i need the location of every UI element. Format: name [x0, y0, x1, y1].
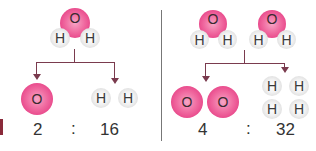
atom-label: O: [267, 11, 278, 27]
ratio-separator: :: [246, 119, 251, 139]
ratio-separator: :: [71, 119, 76, 139]
atom-label: H: [281, 32, 291, 48]
atom-label: O: [32, 91, 43, 107]
atom-label: H: [267, 101, 277, 117]
oxygen-atom: O: [21, 83, 53, 115]
atom-label: H: [294, 101, 304, 117]
hydrogen-atom: H: [118, 88, 138, 108]
left-edge-mark: [0, 119, 3, 135]
atom-label: H: [267, 78, 277, 94]
arrow-down-icon: [281, 67, 289, 73]
atom-label: H: [253, 32, 263, 48]
hydrogen-atom: H: [289, 76, 309, 96]
oxygen-atom: O: [171, 86, 203, 118]
hydrogen-atom: H: [249, 30, 268, 49]
hydrogen-atom: H: [91, 88, 111, 108]
atom-label: O: [218, 94, 229, 110]
oxygen-mass: 4: [198, 120, 207, 140]
atom-label: H: [55, 30, 65, 46]
hydrogen-atom: H: [50, 28, 70, 48]
atom-label: O: [70, 10, 81, 26]
atom-label: H: [96, 90, 106, 106]
atom-label: H: [294, 78, 304, 94]
arrow-down-icon: [202, 76, 210, 82]
hydrogen-mass: 16: [100, 120, 119, 140]
oxygen-atom: O: [207, 86, 239, 118]
atom-label: H: [222, 32, 232, 48]
hydrogen-atom: H: [262, 76, 282, 96]
hydrogen-atom: H: [262, 99, 282, 119]
atom-label: H: [194, 32, 204, 48]
hydrogen-atom: H: [190, 30, 209, 49]
hydrogen-atom: H: [289, 99, 309, 119]
atom-label: O: [182, 94, 193, 110]
oxygen-mass: 2: [33, 120, 42, 140]
atom-label: H: [85, 30, 95, 46]
atom-label: H: [123, 90, 133, 106]
hydrogen-atom: H: [80, 28, 100, 48]
panel-divider: [161, 10, 162, 141]
arrow-down-icon: [111, 78, 119, 84]
hydrogen-atom: H: [218, 30, 237, 49]
arrow-down-icon: [33, 74, 41, 80]
atom-label: O: [208, 11, 219, 27]
hydrogen-mass: 32: [276, 120, 295, 140]
hydrogen-atom: H: [277, 30, 296, 49]
